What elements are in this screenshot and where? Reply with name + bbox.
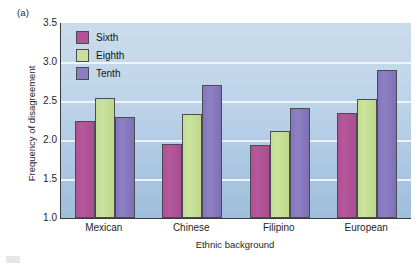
figure-panel: (a) Frequency of disagreement 1.01.52.02… <box>0 0 418 266</box>
legend-swatch-icon <box>76 67 89 80</box>
y-tick-label: 3.0 <box>31 57 57 67</box>
scan-artifact <box>6 256 20 263</box>
legend-label: Eighth <box>96 51 124 61</box>
y-tick-label: 1.0 <box>31 213 57 223</box>
y-tick-label: 2.5 <box>31 96 57 106</box>
legend-label: Sixth <box>96 33 118 43</box>
x-tick-label: Filipino <box>263 222 295 233</box>
bar-chinese-sixth <box>162 144 182 218</box>
bar-mexican-sixth <box>75 121 95 219</box>
bar-european-tenth <box>377 70 397 218</box>
bar-european-sixth <box>337 113 357 218</box>
bar-mexican-eighth <box>95 98 115 218</box>
bar-chinese-eighth <box>182 114 202 218</box>
bar-mexican-tenth <box>115 117 135 218</box>
legend-item-tenth: Tenth <box>76 65 124 82</box>
y-axis-tick-labels: 1.01.52.02.53.03.5 <box>28 0 57 266</box>
legend-item-sixth: Sixth <box>76 29 124 46</box>
x-axis-tick-labels: MexicanChineseFilipinoEuropean <box>60 222 410 238</box>
bar-chinese-tenth <box>202 85 222 218</box>
legend-swatch-icon <box>76 49 89 62</box>
legend-item-eighth: Eighth <box>76 47 124 64</box>
x-tick-label: Chinese <box>173 222 210 233</box>
legend: SixthEighthTenth <box>76 29 124 83</box>
bar-filipino-eighth <box>270 131 290 218</box>
bar-filipino-tenth <box>290 108 310 218</box>
legend-label: Tenth <box>96 69 120 79</box>
x-tick-label: European <box>345 222 388 233</box>
x-tick-label: Mexican <box>85 222 122 233</box>
bar-filipino-sixth <box>250 145 270 218</box>
x-axis-title: Ethnic background <box>60 239 410 250</box>
bar-european-eighth <box>357 99 377 218</box>
y-tick-label: 3.5 <box>31 18 57 28</box>
plot-area: SixthEighthTenth <box>60 23 411 219</box>
y-tick-label: 2.0 <box>31 135 57 145</box>
legend-swatch-icon <box>76 31 89 44</box>
y-tick-label: 1.5 <box>31 174 57 184</box>
